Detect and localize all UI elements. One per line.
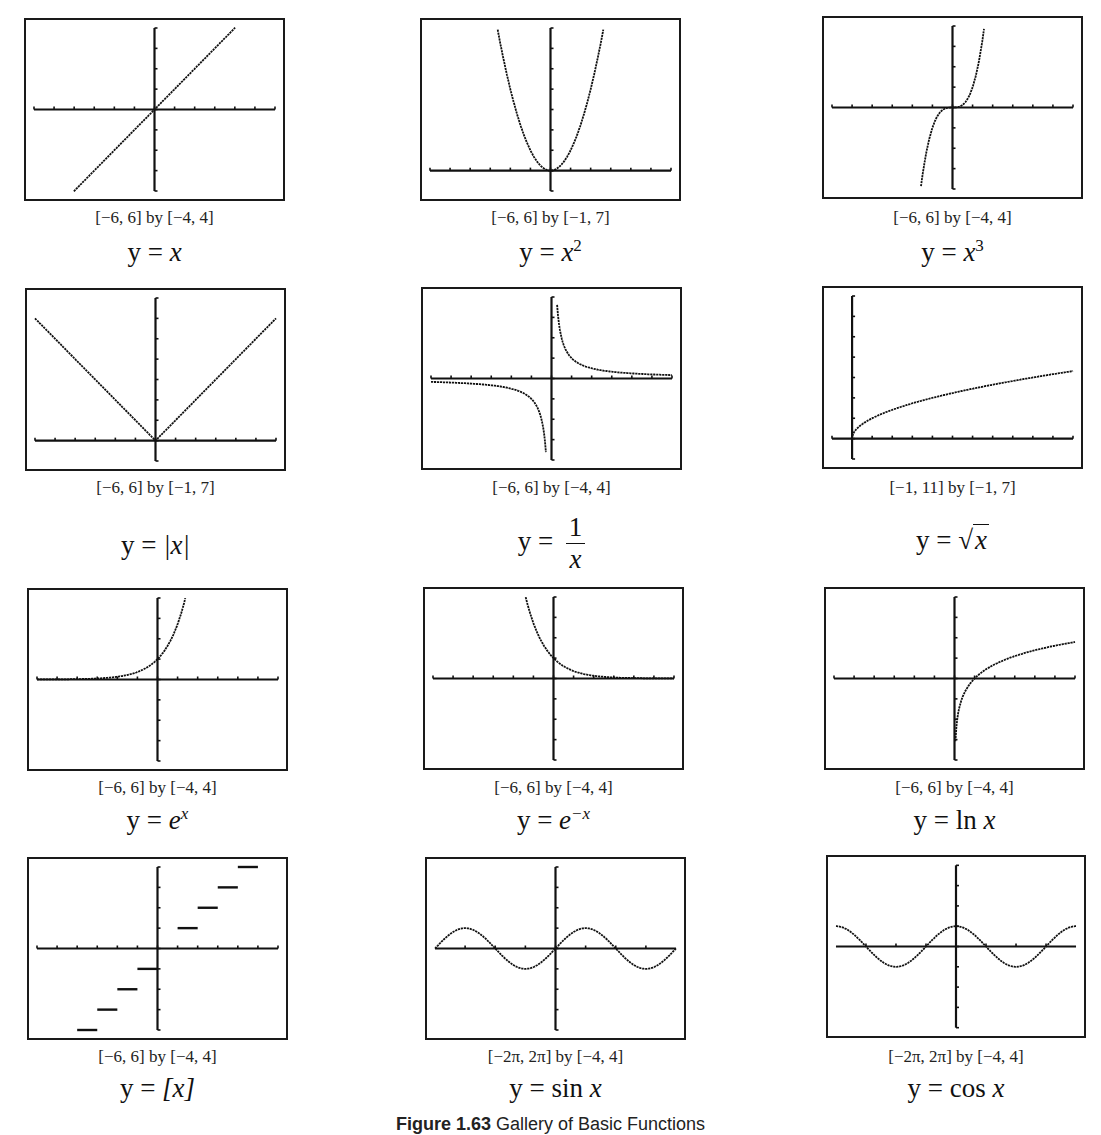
function-curve <box>955 642 1075 741</box>
graph-sin <box>425 857 686 1040</box>
graph-identity <box>24 18 285 201</box>
equation-label: y = x2 <box>420 237 681 268</box>
window-label: [−6, 6] by [−4, 4] <box>421 478 682 498</box>
graph-square <box>420 18 681 201</box>
graph-exp <box>27 588 288 771</box>
window-label: [−2π, 2π] by [−4, 4] <box>826 1047 1086 1067</box>
graph-reciprocal <box>421 287 682 470</box>
equation-label: y = ex <box>27 805 288 836</box>
graph-exp-neg <box>423 587 684 770</box>
window-label: [−6, 6] by [−1, 7] <box>420 208 681 228</box>
function-curve <box>526 597 674 678</box>
window-label: [−6, 6] by [−4, 4] <box>27 1047 288 1067</box>
equation-label: y = ln x <box>824 805 1085 836</box>
equation-label: y = cos x <box>826 1073 1086 1104</box>
window-label: [−1, 11] by [−1, 7] <box>822 478 1083 498</box>
figure-number: Figure 1.63 <box>396 1114 491 1134</box>
window-label: [−6, 6] by [−4, 4] <box>24 208 285 228</box>
graph-cos <box>826 855 1086 1038</box>
equation-label: y = [x] <box>27 1073 288 1104</box>
graph-sqrt <box>822 286 1083 469</box>
equation-label: y = x3 <box>822 237 1083 268</box>
figure-caption: Figure 1.63 Gallery of Basic Functions <box>0 1114 1101 1135</box>
graph-abs <box>25 288 286 471</box>
function-curve <box>37 598 185 679</box>
equation-label: y = |x| <box>25 530 286 561</box>
equation-label: y = e−x <box>423 805 684 836</box>
graph-floor <box>27 857 288 1040</box>
graph-cube <box>822 16 1083 199</box>
window-label: [−6, 6] by [−4, 4] <box>27 778 288 798</box>
window-label: [−6, 6] by [−4, 4] <box>423 778 684 798</box>
function-curve <box>852 371 1073 436</box>
equation-label: y = √x <box>822 525 1083 556</box>
window-label: [−6, 6] by [−1, 7] <box>25 478 286 498</box>
window-label: [−2π, 2π] by [−4, 4] <box>425 1047 686 1067</box>
equation-label: y = 1x <box>421 512 682 575</box>
window-label: [−6, 6] by [−4, 4] <box>824 778 1085 798</box>
equation-label: y = x <box>24 237 285 268</box>
graph-ln <box>824 587 1085 770</box>
window-label: [−6, 6] by [−4, 4] <box>822 208 1083 228</box>
equation-label: y = sin x <box>425 1073 686 1104</box>
figure-title: Gallery of Basic Functions <box>496 1114 705 1134</box>
